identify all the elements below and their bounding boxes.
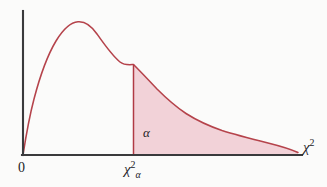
critical-value-symbol: χ: [124, 161, 131, 177]
critical-value-label: χ2α: [124, 160, 141, 180]
chi-square-figure: 0 χ2α χ2 α: [0, 0, 327, 187]
x-axis-symbol: χ: [303, 139, 310, 155]
critical-value-subscript: α: [136, 169, 141, 180]
x-axis-label: χ2: [303, 138, 315, 155]
origin-label: 0: [18, 161, 25, 175]
alpha-tail-shaded-region: [134, 65, 299, 156]
alpha-area-label: α: [143, 126, 150, 139]
chi-square-plot-svg: [0, 0, 327, 187]
x-axis-superscript: 2: [310, 137, 315, 148]
